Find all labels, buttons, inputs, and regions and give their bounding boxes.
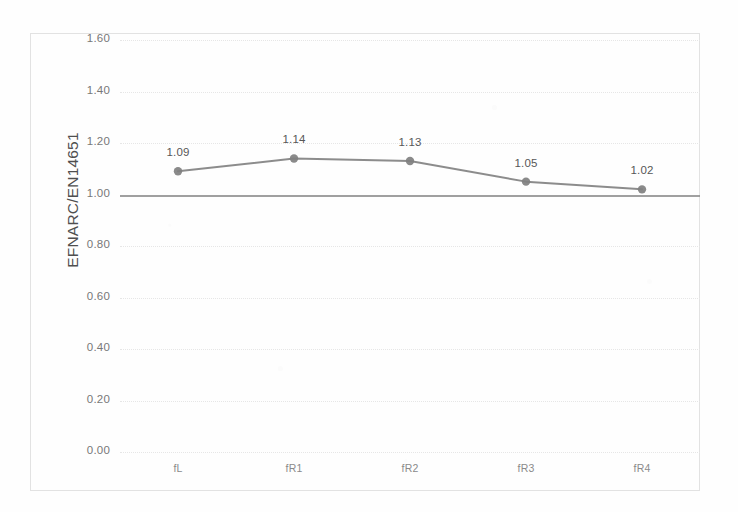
y-tick-label-0.20: 0.20: [64, 393, 110, 405]
y-tick-label-0.60: 0.60: [64, 290, 110, 302]
x-tick-label-fR1: fR1: [259, 462, 329, 474]
y-tick-label-0.80: 0.80: [64, 238, 110, 250]
data-label-fL: 1.09: [150, 146, 206, 158]
x-tick-label-fL: fL: [143, 462, 213, 474]
series-markers: [174, 154, 646, 193]
data-label-fR2: 1.13: [382, 136, 438, 148]
data-label-fR3: 1.05: [498, 157, 554, 169]
x-tick-label-fR3: fR3: [491, 462, 561, 474]
plot-area: 1.091.141.131.051.02: [120, 40, 700, 452]
gridline-0.00: [120, 452, 700, 453]
line-series: [120, 40, 700, 452]
data-point-fR4: [638, 185, 646, 193]
y-tick-label-0.40: 0.40: [64, 341, 110, 353]
data-point-fR1: [290, 154, 298, 162]
data-label-fR1: 1.14: [266, 133, 322, 145]
y-tick-label-0.00: 0.00: [64, 444, 110, 456]
data-point-fR3: [522, 177, 530, 185]
y-tick-label-1.00: 1.00: [64, 187, 110, 199]
data-label-fR4: 1.02: [614, 164, 670, 176]
x-tick-label-fR4: fR4: [607, 462, 677, 474]
scanned-page-canvas: EFNARC/EN14651 0.000.200.400.600.801.001…: [0, 0, 738, 512]
x-tick-label-fR2: fR2: [375, 462, 445, 474]
data-point-fL: [174, 167, 182, 175]
y-tick-label-1.20: 1.20: [64, 135, 110, 147]
y-tick-label-1.60: 1.60: [64, 32, 110, 44]
data-point-fR2: [406, 157, 414, 165]
y-tick-label-1.40: 1.40: [64, 84, 110, 96]
